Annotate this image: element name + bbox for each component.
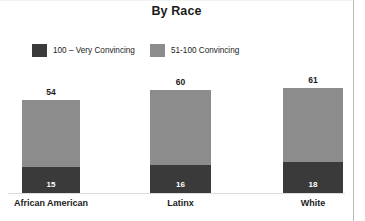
bar-segment-value-label: 16 [150,180,211,189]
category-label: Latinx [128,198,233,208]
bar-total-label: 60 [150,77,211,87]
bar-group: 60 16 Latinx [150,90,211,193]
chart-frame-right-border [353,0,354,221]
bar-segment-very-convincing: 16 [150,165,211,193]
bar-segment-very-convincing: 15 [22,167,80,193]
chart-screenshot: By Race 100 – Very Convincing 51-100 Con… [0,0,365,221]
bar-total-label: 61 [283,75,343,85]
category-label: African American [0,198,102,208]
bar-segment-very-convincing: 18 [283,162,343,193]
bar-stack: 61 18 [283,88,343,193]
bar-segment-value-label: 15 [22,180,80,189]
category-axis-line [8,193,345,194]
bar-segment-convincing [150,90,211,165]
bar-stack: 54 15 [22,100,80,193]
bar-total-label: 54 [22,87,80,97]
bar-segment-convincing [22,100,80,167]
bar-group: 54 15 African American [22,100,80,193]
bar-segment-value-label: 18 [283,180,343,189]
bar-segment-convincing [283,88,343,162]
category-label: White [261,198,365,208]
bar-stack: 60 16 [150,90,211,193]
bar-group: 61 18 White [283,88,343,193]
plot-area: 54 15 African American 60 16 Latinx 61 [0,0,353,221]
